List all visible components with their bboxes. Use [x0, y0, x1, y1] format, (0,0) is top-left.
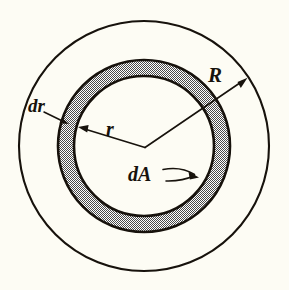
label-dA: dA [128, 163, 151, 185]
figure-container: dr r R dA [0, 0, 289, 290]
annulus-diagram: dr r R dA [0, 0, 289, 290]
label-R: R [207, 63, 222, 87]
label-dr: dr [28, 95, 46, 116]
annulus-shaded-region [0, 0, 289, 290]
label-r: r [106, 118, 114, 140]
